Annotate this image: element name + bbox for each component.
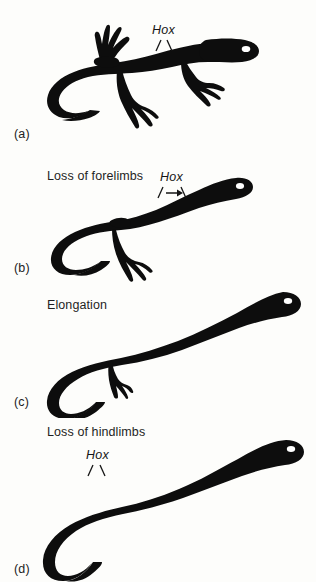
panel-label-a: (a)	[14, 127, 30, 141]
caption-loss-of-hindlimbs: Loss of hindlimbs	[47, 425, 145, 439]
panel-label-b: (b)	[14, 261, 30, 275]
hox-label-b: Hox	[160, 170, 183, 184]
caption-elongation: Elongation	[47, 298, 107, 312]
caption-loss-of-forelimbs: Loss of forelimbs	[47, 169, 143, 183]
hox-label-d: Hox	[86, 448, 109, 462]
eye	[287, 446, 295, 452]
panel-b: Loss of forelimbs Hox (b)	[0, 148, 316, 284]
panel-a: Hox (a)	[0, 0, 316, 150]
panel-label-c: (c)	[14, 395, 29, 409]
panel-c: Elongation (c)	[0, 282, 316, 418]
panel-d: Loss of hindlimbs Hox (d)	[0, 414, 316, 582]
eye	[284, 298, 292, 304]
limbless-snake-body-silhouette	[0, 414, 316, 582]
snake-evolution-figure: Hox (a) Loss of forelimbs Hox	[0, 0, 316, 582]
eye	[242, 46, 251, 52]
eye	[236, 183, 244, 189]
panel-label-d: (d)	[14, 562, 30, 576]
hox-label-a: Hox	[152, 23, 175, 37]
